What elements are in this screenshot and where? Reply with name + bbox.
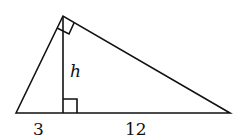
height-label: h <box>70 63 81 80</box>
right-angle-mark-base <box>63 99 77 113</box>
triangle <box>16 16 230 113</box>
left-segment-label: 3 <box>33 121 44 138</box>
right-segment-label: 12 <box>125 121 147 138</box>
triangle-diagram: h 3 12 <box>0 0 250 140</box>
